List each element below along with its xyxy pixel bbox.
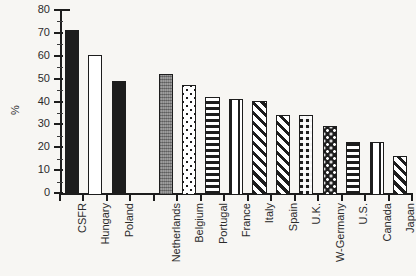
x-label-u-s-: U.S. [358,203,369,224]
bar-portugal [205,97,219,195]
plot-area [60,10,412,195]
x-label-w-germany: W-Germany [335,203,346,262]
bar-japan [393,156,407,195]
y-tick-label-20: 20 [22,141,50,151]
y-tick-label-0: 0 [22,187,50,197]
y-tick-label-70: 70 [22,27,50,37]
y-tick-label-30: 30 [22,118,50,128]
y-tick-label-80: 80 [22,4,50,14]
x-label-belgium: Belgium [194,203,205,243]
bar-france [229,99,243,195]
x-label-csfr: CSFR [77,203,88,233]
x-label-hungary: Hungary [100,203,111,245]
bar-belgium [182,85,196,195]
bar-canada [370,142,384,195]
x-label-france: France [241,203,252,237]
bar-netherlands [159,74,173,195]
y-tick-label-50: 50 [22,73,50,83]
bar-poland [112,81,126,195]
bar-chart: % 01020304050607080 CSFRHungaryPolandNet… [0,0,416,276]
bar-u-k- [299,115,313,195]
bar-italy [252,101,266,195]
y-tick-label-10: 10 [22,164,50,174]
y-tick-label-60: 60 [22,50,50,60]
x-label-spain: Spain [288,203,299,231]
x-label-italy: Italy [264,203,275,223]
bar-u-s- [346,142,360,195]
y-axis-label: % [9,97,21,123]
y-tick-label-40: 40 [22,96,50,106]
bar-spain [276,115,290,195]
x-label-u-k-: U.K. [311,203,322,224]
x-label-japan: Japan [405,203,416,233]
x-label-netherlands: Netherlands [171,203,182,262]
x-label-canada: Canada [382,203,393,242]
bar-w-germany [323,126,337,195]
x-label-poland: Poland [124,203,135,237]
bar-csfr [65,30,79,195]
x-label-portugal: Portugal [218,203,229,244]
bar-hungary [88,55,102,195]
